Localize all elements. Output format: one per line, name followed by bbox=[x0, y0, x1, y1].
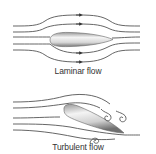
streamline bbox=[13, 124, 140, 135]
turbulent-flow-caption: Turbulent flow bbox=[0, 142, 156, 152]
turbulent-panel bbox=[13, 94, 140, 143]
laminar-flow-caption: Laminar flow bbox=[0, 66, 156, 76]
airfoil-body bbox=[50, 32, 113, 46]
vortex-icon bbox=[116, 111, 126, 122]
streamline bbox=[13, 130, 115, 140]
streamline bbox=[112, 37, 140, 38]
airfoil-body bbox=[64, 104, 124, 133]
streamline bbox=[13, 117, 60, 118]
streamline bbox=[13, 103, 100, 108]
laminar-panel bbox=[13, 15, 140, 62]
streamline bbox=[13, 50, 140, 62]
flow-diagram bbox=[0, 0, 156, 154]
streamline bbox=[13, 94, 110, 104]
